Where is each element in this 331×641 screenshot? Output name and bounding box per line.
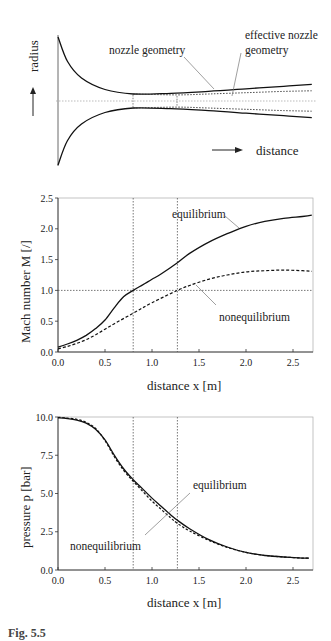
y-tick-label: 2.0 <box>41 223 54 234</box>
x-axis-title: distance x [m] <box>147 595 221 610</box>
x-tick-label: 1.5 <box>193 357 206 368</box>
label-nozzle-geometry: nozzle geometry <box>109 44 186 57</box>
radius-arrow-icon <box>30 87 36 116</box>
x-tick-label: 0.5 <box>99 575 112 586</box>
series-nonequilibrium <box>58 417 309 558</box>
series-nonequilibrium <box>58 270 312 349</box>
leader-line-nonequilibrium <box>196 285 216 305</box>
label-nonequilibrium: nonequilibrium <box>219 311 290 324</box>
y-tick-label: 1.0 <box>41 285 54 296</box>
label-equilibrium: equilibrium <box>193 479 247 492</box>
figure-caption: Fig. 5.5 <box>8 626 46 641</box>
x-tick-label: 1.0 <box>146 575 159 586</box>
series-equilibrium <box>58 215 312 347</box>
y-tick-label: 0.0 <box>41 347 54 358</box>
x-tick-label: 0.5 <box>99 357 112 368</box>
series-equilibrium <box>58 418 309 558</box>
y-ticks: 0.00.51.01.52.02.5 <box>41 193 59 358</box>
y-tick-label: 0.5 <box>41 316 54 327</box>
x-tick-label: 2.5 <box>287 357 300 368</box>
x-tick-label: 2.0 <box>240 357 253 368</box>
radius-axis-title: radius <box>26 40 41 72</box>
y-tick-label: 1.5 <box>41 254 54 265</box>
y-axis-title: Mach number M [/] <box>18 240 33 343</box>
y-tick-label: 2.5 <box>41 526 54 537</box>
label-effective-nozzle: effective nozzle <box>245 29 318 41</box>
label-nonequilibrium: nonequilibrium <box>70 540 141 553</box>
label-equilibrium: equilibrium <box>172 208 226 221</box>
y-tick-label: 5.0 <box>41 488 54 499</box>
leader-line-equilibrium-nonequilibrium <box>145 493 190 535</box>
y-tick-label: 0.0 <box>41 565 54 576</box>
x-tick-label: 1.5 <box>193 575 206 586</box>
x-tick-label: 1.0 <box>146 357 159 368</box>
x-tick-label: 2.5 <box>287 575 300 586</box>
y-tick-label: 10.0 <box>36 412 54 423</box>
panel-mach-number: 0.00.51.01.52.02.5 0.00.51.01.52.02.5 eq… <box>18 193 313 394</box>
leader-line-equilibrium <box>225 216 239 228</box>
x-axis-title: distance x [m] <box>147 378 221 393</box>
distance-axis-title: distance <box>256 143 299 158</box>
y-tick-label: 7.5 <box>41 450 54 461</box>
y-axis-title: pressure p [bar] <box>18 466 33 548</box>
x-tick-label: 2.0 <box>240 575 253 586</box>
panel-nozzle-schematic: nozzle geometry effective nozzle geometr… <box>26 29 318 166</box>
label-effective-geometry: geometry <box>245 44 289 57</box>
x-tick-label: 0.0 <box>52 357 65 368</box>
x-tick-label: 0.0 <box>52 575 65 586</box>
panel-pressure: 0.02.55.07.510.0 0.00.51.01.52.02.5 equi… <box>18 412 313 611</box>
y-ticks: 0.02.55.07.510.0 <box>36 412 59 576</box>
distance-arrow-icon <box>212 147 243 153</box>
y-tick-label: 2.5 <box>41 193 54 204</box>
leader-line-nozzle-geometry <box>184 57 214 89</box>
